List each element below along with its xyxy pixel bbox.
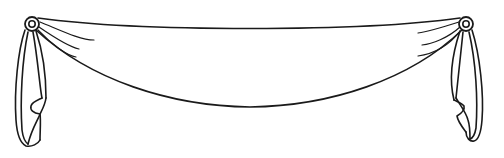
tail-inner-fold bbox=[21, 32, 28, 144]
rosette-outer-ring bbox=[25, 17, 39, 31]
left-tail bbox=[15, 30, 46, 146]
swag-top-edge bbox=[38, 18, 460, 29]
swag-drape-illustration bbox=[0, 0, 504, 158]
swag-bottom-edge bbox=[36, 30, 462, 107]
rosette-outer-ring bbox=[459, 17, 473, 31]
tail-hem-fold bbox=[40, 98, 46, 140]
drape-drawing bbox=[0, 0, 504, 158]
fold-line bbox=[40, 22, 94, 40]
fold-line bbox=[418, 22, 459, 33]
tail-inner-fold bbox=[469, 32, 477, 139]
right-rosette bbox=[459, 17, 473, 31]
swag-body bbox=[36, 18, 462, 107]
tail-outer-edge bbox=[15, 30, 40, 146]
right-tail bbox=[452, 30, 483, 141]
left-rosette bbox=[25, 17, 39, 31]
tail-inner-fold bbox=[33, 32, 42, 98]
